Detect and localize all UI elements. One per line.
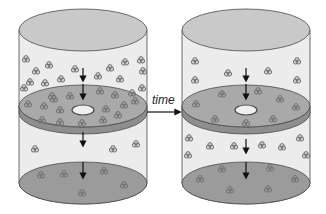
disc-hole-after xyxy=(235,105,257,115)
diffusion-diagram: time xyxy=(0,0,326,214)
cylinder-before xyxy=(19,9,147,204)
time-label: time xyxy=(152,93,175,107)
top-cap-before xyxy=(19,9,147,51)
top-cap-after xyxy=(182,9,310,51)
cylinder-after xyxy=(182,9,310,204)
disc-hole-before xyxy=(72,105,94,115)
time-arrow: time xyxy=(147,93,178,112)
